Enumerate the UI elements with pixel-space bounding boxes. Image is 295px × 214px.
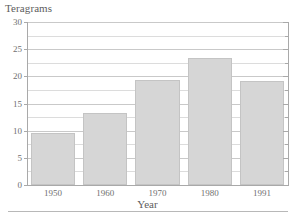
y-axis-right-tick — [283, 158, 289, 159]
bar-1980 — [188, 58, 232, 185]
y-axis-left-tick — [24, 131, 28, 132]
bar-chart: Teragrams 051015202530 19501960197019801… — [0, 0, 295, 214]
bar-1950 — [31, 133, 75, 185]
bar-1991 — [240, 81, 284, 185]
x-tick-label-1950: 1950 — [27, 188, 79, 198]
y-axis-right-tick — [283, 185, 289, 186]
y-tick-label-10: 10 — [0, 127, 22, 136]
bar-1970 — [135, 80, 179, 185]
y-axis-right-tick — [283, 49, 289, 50]
y-axis-left-tick — [24, 22, 28, 23]
x-tick-label-1991: 1991 — [236, 188, 288, 198]
y-tick-label-20: 20 — [0, 72, 22, 81]
y-axis-left-tick — [24, 49, 28, 50]
y-axis-right-minor-tick — [285, 171, 289, 172]
y-axis-right-minor-tick — [285, 36, 289, 37]
y-axis-right-tick — [283, 104, 289, 105]
y-axis-right-minor-tick — [285, 63, 289, 64]
x-axis-title: Year — [0, 198, 295, 210]
bars-group — [27, 22, 288, 185]
x-tick-label-1960: 1960 — [79, 188, 131, 198]
y-tick-label-30: 30 — [0, 18, 22, 27]
y-tick-label-5: 5 — [0, 154, 22, 163]
plot-area — [27, 22, 288, 185]
x-tick-label-1980: 1980 — [184, 188, 236, 198]
x-axis-line — [27, 185, 289, 186]
y-axis-right-minor-tick — [285, 117, 289, 118]
bottom-rule — [8, 211, 288, 212]
y-axis-left-tick — [24, 104, 28, 105]
y-axis-left-tick — [24, 76, 28, 77]
y-axis-right-tick — [283, 22, 289, 23]
x-tick-label-1970: 1970 — [131, 188, 183, 198]
y-axis-title: Teragrams — [5, 2, 52, 14]
y-tick-label-0: 0 — [0, 181, 22, 190]
y-axis-right-minor-tick — [285, 90, 289, 91]
y-axis-right-tick — [283, 76, 289, 77]
y-tick-label-15: 15 — [0, 100, 22, 109]
y-axis-left-tick — [24, 185, 28, 186]
y-axis-right-minor-tick — [285, 144, 289, 145]
y-axis-right-tick — [283, 131, 289, 132]
y-axis-left-tick — [24, 158, 28, 159]
bar-1960 — [83, 113, 127, 185]
y-tick-label-25: 25 — [0, 45, 22, 54]
